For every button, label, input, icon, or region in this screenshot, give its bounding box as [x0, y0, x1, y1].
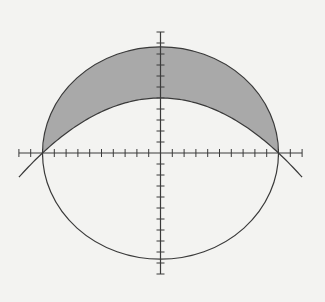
circle-parabola-diagram — [0, 0, 325, 302]
diagram-canvas — [0, 0, 325, 302]
